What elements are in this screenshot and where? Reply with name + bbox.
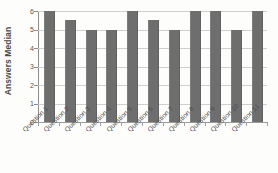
y-axis-title-label: Answers Median <box>3 27 13 95</box>
gridline-6 <box>38 11 267 12</box>
bar-chart-figure: Answers Median 0123456 Question 1Questio… <box>0 0 278 173</box>
x-axis-category-labels: Question 1Question 2Question 3Question 4… <box>0 126 278 173</box>
y-axis-title: Answers Median <box>0 0 16 122</box>
